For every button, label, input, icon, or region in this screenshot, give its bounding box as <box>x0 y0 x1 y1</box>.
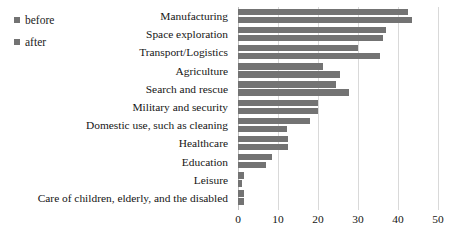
bar-after <box>238 198 244 204</box>
bar-group <box>238 134 462 152</box>
bar-before <box>238 154 272 160</box>
chart-plot-area: ManufacturingSpace explorationTransport/… <box>0 7 462 244</box>
bar-group <box>238 80 462 98</box>
bar-group <box>238 62 462 80</box>
bar-after <box>238 144 288 150</box>
x-tick-label: 10 <box>263 212 293 226</box>
bar-group <box>238 116 462 134</box>
bar-before <box>238 81 336 87</box>
bar-after <box>238 108 318 114</box>
bar-before <box>238 100 318 106</box>
category-label: Transport/Logistics <box>139 43 228 61</box>
bar-before <box>238 172 244 178</box>
x-tick-label: 40 <box>383 212 413 226</box>
bar-group <box>238 189 462 207</box>
chart-row: Healthcare <box>0 134 462 152</box>
chart-row: Military and security <box>0 98 462 116</box>
x-axis-tick-labels: 01020304050 <box>0 212 462 232</box>
chart-row: Manufacturing <box>0 7 462 25</box>
bar-group <box>238 7 462 25</box>
category-label: Manufacturing <box>160 7 228 25</box>
x-tick-label: 30 <box>343 212 373 226</box>
chart-row: Agriculture <box>0 62 462 80</box>
bar-before <box>238 136 288 142</box>
bar-after <box>238 180 242 186</box>
bar-group <box>238 43 462 61</box>
bar-before <box>238 63 323 69</box>
chart-row: Search and rescue <box>0 80 462 98</box>
chart-row: Education <box>0 153 462 171</box>
chart-row: Domestic use, such as cleaning <box>0 116 462 134</box>
bar-chart: before after ManufacturingSpace explorat… <box>0 0 462 244</box>
chart-row: Space exploration <box>0 25 462 43</box>
bar-group <box>238 171 462 189</box>
bar-group <box>238 153 462 171</box>
category-label: Healthcare <box>179 134 228 152</box>
bar-before <box>238 190 244 196</box>
category-label: Leisure <box>194 171 228 189</box>
chart-row: Transport/Logistics <box>0 43 462 61</box>
bar-after <box>238 17 412 23</box>
bar-before <box>238 118 310 124</box>
category-label: Education <box>182 153 228 171</box>
bar-after <box>238 162 266 168</box>
category-label: Military and security <box>132 98 228 116</box>
category-label: Domestic use, such as cleaning <box>86 116 228 134</box>
bar-after <box>238 71 340 77</box>
category-label: Care of children, elderly, and the disab… <box>38 189 228 207</box>
bar-group <box>238 98 462 116</box>
category-label: Agriculture <box>175 62 228 80</box>
x-tick-label: 50 <box>423 212 453 226</box>
bar-before <box>238 45 358 51</box>
category-label: Space exploration <box>146 25 228 43</box>
bar-before <box>238 27 386 33</box>
category-label: Search and rescue <box>146 80 228 98</box>
x-tick-label: 20 <box>303 212 333 226</box>
bar-before <box>238 9 408 15</box>
bar-after <box>238 126 287 132</box>
bar-group <box>238 25 462 43</box>
bar-after <box>238 89 349 95</box>
chart-row: Leisure <box>0 171 462 189</box>
chart-row: Care of children, elderly, and the disab… <box>0 189 462 207</box>
bar-after <box>238 35 383 41</box>
bar-after <box>238 53 380 59</box>
x-tick-label: 0 <box>223 212 253 226</box>
